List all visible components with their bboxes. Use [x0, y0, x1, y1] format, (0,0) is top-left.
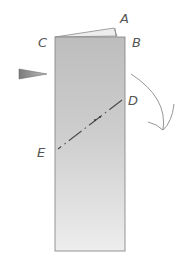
label-d: D	[128, 94, 138, 107]
label-c: C	[38, 36, 47, 49]
label-e: E	[37, 146, 45, 159]
top-flap	[55, 28, 117, 37]
label-b: B	[132, 36, 141, 49]
label-a: A	[120, 12, 129, 25]
paper-strip	[55, 37, 125, 251]
origami-diagram	[0, 0, 190, 272]
push-arrow-icon	[19, 69, 47, 79]
